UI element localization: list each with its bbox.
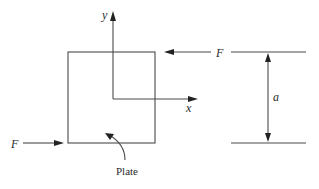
plate-leader-arrow [105,133,125,160]
diagram-svg: y x F F a Pla [0,0,319,189]
diagram-canvas: y x F F a Pla [0,0,319,189]
y-axis-arrowhead-icon [110,11,116,21]
force-top-arrow [164,49,211,55]
plate-label: Plate [116,165,138,177]
dimension-down-arrowhead-icon [265,133,271,142]
force-bottom-label: F [10,137,19,151]
force-top-arrowhead-icon [164,49,174,55]
dimension-up-arrowhead-icon [265,53,271,62]
y-axis [110,11,116,99]
dimension-a-arrow [265,53,271,142]
x-axis-label: x [185,101,192,115]
y-axis-label: y [101,8,108,22]
dimension-a-label: a [273,90,279,104]
plate-leader-arrowhead-icon [105,133,114,140]
plate-square [68,52,155,143]
force-bottom-arrow [23,140,64,146]
force-bottom-arrowhead-icon [54,140,64,146]
force-top-label: F [215,46,224,60]
